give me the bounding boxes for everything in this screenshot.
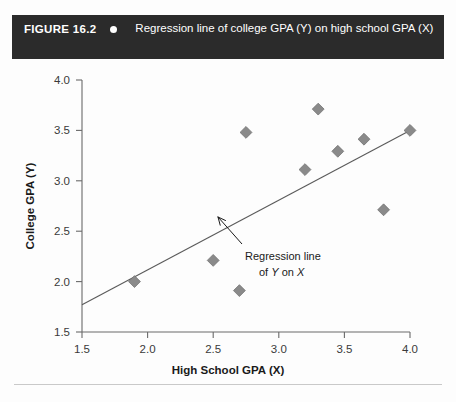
data-point (299, 164, 311, 176)
y-axis-title: College GPA (Y) (24, 162, 36, 249)
x-tick-label: 3.5 (336, 343, 352, 355)
y-tick-label: 4.0 (54, 74, 70, 86)
x-tick-label: 3.0 (271, 343, 287, 355)
x-tick-label: 2.0 (140, 343, 156, 355)
x-axis-ticks: 1.5 2.0 2.5 3.0 3.5 4.0 (74, 332, 418, 355)
annotation-of: of (259, 266, 271, 278)
data-point (129, 276, 141, 288)
figure-number-label: FIGURE 16.2 (24, 21, 96, 37)
data-point (332, 145, 344, 157)
y-tick-label: 3.5 (54, 124, 70, 136)
x-axis-title-label: High School GPA (X) (172, 364, 284, 376)
data-point (240, 126, 252, 138)
data-point (358, 133, 370, 145)
y-tick-label: 2.5 (54, 225, 70, 237)
figure-container: FIGURE 16.2 Regression line of college G… (0, 0, 456, 402)
annotation-x-var: X (296, 266, 305, 278)
x-tick-label: 2.5 (205, 343, 221, 355)
bullet-dot-icon (110, 26, 117, 33)
y-tick-label: 2.0 (54, 276, 70, 288)
data-point (207, 254, 219, 266)
annotation-line-2: of Y on X (259, 266, 305, 278)
y-tick-label: 1.5 (54, 326, 70, 338)
bottom-divider (14, 384, 442, 385)
scatter-plot-svg: 4.0 3.5 3.0 2.5 2.0 1.5 1.5 2.0 2.5 3.0 … (0, 62, 456, 362)
y-axis-title-text: College GPA (Y) (24, 162, 36, 249)
data-point (404, 124, 416, 136)
figure-caption-text: Regression line of college GPA (Y) on hi… (135, 21, 433, 36)
data-point (378, 204, 390, 216)
y-tick-label: 3.0 (54, 175, 70, 187)
figure-header-bar: FIGURE 16.2 Regression line of college G… (12, 15, 444, 59)
annotation-on: on (279, 266, 297, 278)
annotation-line-1: Regression line (245, 250, 321, 262)
x-tick-label: 4.0 (402, 343, 418, 355)
data-point (312, 103, 324, 115)
y-axis-ticks: 4.0 3.5 3.0 2.5 2.0 1.5 (54, 74, 82, 338)
data-point (233, 285, 245, 297)
chart-plot-area: 4.0 3.5 3.0 2.5 2.0 1.5 1.5 2.0 2.5 3.0 … (0, 62, 456, 362)
x-tick-label: 1.5 (74, 343, 90, 355)
x-axis-title-wrap: High School GPA (X) (0, 360, 456, 378)
